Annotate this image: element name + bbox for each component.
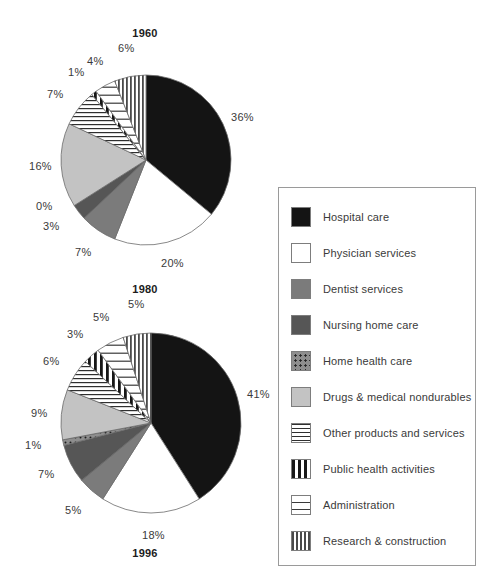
legend-swatch-hlines-icon: [291, 423, 311, 443]
pie-slice-label: 5%: [93, 311, 110, 323]
pie-slice-label: 36%: [231, 111, 254, 123]
legend-label: Drugs & medical nondurables: [323, 392, 471, 403]
pie-slice-label: 1%: [68, 66, 85, 78]
pie-slice-label: 16%: [29, 160, 52, 172]
legend-swatch-vthin-icon: [291, 531, 311, 551]
pie-slice-label: 6%: [118, 42, 135, 54]
chart-title-1960: 1960: [95, 27, 195, 39]
pie-chart-page: 1960 36%20%7%3%0%16%7%1%4%6% 1980 41%18%…: [0, 0, 500, 580]
pie-slice-label: 7%: [75, 246, 92, 258]
legend-label: Other products and services: [323, 428, 465, 439]
legend-label: Dentist services: [323, 284, 403, 295]
legend-swatch-dots-icon: [291, 351, 311, 371]
legend-label: Home health care: [323, 356, 412, 367]
pie-svg-1960: [58, 72, 234, 248]
pie-slice-label: 41%: [247, 388, 270, 400]
legend-item: Research & construction: [279, 523, 475, 559]
legend-item: Nursing home care: [279, 307, 475, 343]
legend-swatch-vbars-icon: [291, 459, 311, 479]
legend-swatch-solid-black-icon: [291, 207, 311, 227]
pie-slice-label: 9%: [31, 407, 48, 419]
legend-label: Public health activities: [323, 464, 435, 475]
pie-slice-label: 4%: [87, 55, 104, 67]
legend-item: Drugs & medical nondurables: [279, 379, 475, 415]
pie-slice-label: 1%: [25, 439, 42, 451]
pie-slice-label: 18%: [142, 529, 165, 541]
pie-slice-label: 20%: [161, 257, 184, 269]
legend-item: Physician services: [279, 235, 475, 271]
legend-swatch-gray-light-icon: [291, 387, 311, 407]
legend-swatch-hband-icon: [291, 495, 311, 515]
pie-slice-label: 3%: [67, 328, 84, 340]
legend-swatch-gray-dark-icon: [291, 315, 311, 335]
legend-label: Research & construction: [323, 536, 446, 547]
pie-slice-label: 3%: [43, 220, 60, 232]
legend-list: Hospital carePhysician servicesDentist s…: [279, 188, 475, 565]
legend-item: Public health activities: [279, 451, 475, 487]
legend-swatch-white-icon: [291, 243, 311, 263]
chart-title-1996: 1996: [95, 547, 195, 559]
legend-item: Home health care: [279, 343, 475, 379]
legend-item: Administration: [279, 487, 475, 523]
pie-slice-label: 5%: [65, 504, 82, 516]
chart-title-1980: 1980: [95, 283, 195, 295]
pie-slice-label: 0%: [36, 200, 53, 212]
pie-chart-1960: [58, 72, 234, 248]
pie-chart-1980: [58, 330, 244, 516]
legend-box: Hospital carePhysician servicesDentist s…: [278, 187, 476, 566]
legend-label: Nursing home care: [323, 320, 418, 331]
pie-slice-label: 7%: [47, 88, 64, 100]
pie-slice-label: 6%: [43, 355, 60, 367]
legend-label: Administration: [323, 500, 395, 511]
legend-item: Other products and services: [279, 415, 475, 451]
legend-item: Dentist services: [279, 271, 475, 307]
pie-slice-label: 5%: [128, 298, 145, 310]
pie-slice-label: 7%: [38, 468, 55, 480]
legend-label: Hospital care: [323, 212, 389, 223]
legend-swatch-gray-med-icon: [291, 279, 311, 299]
legend-label: Physician services: [323, 248, 416, 259]
legend-item: Hospital care: [279, 199, 475, 235]
pie-svg-1980: [58, 330, 244, 516]
